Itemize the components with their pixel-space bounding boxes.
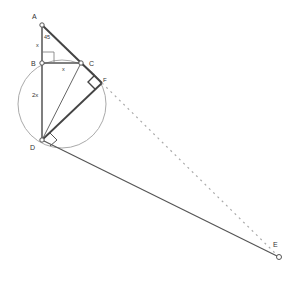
label-C: C [89, 60, 94, 67]
point-C-marker [79, 61, 83, 65]
diagram-svg: A B C F D E 45 x x 2x [0, 0, 290, 289]
segment-DF [42, 83, 102, 140]
point-D-marker [40, 138, 44, 142]
label-B: B [31, 60, 36, 67]
label-D: D [30, 144, 35, 151]
label-E: E [273, 241, 278, 248]
label-BD-2x: 2x [32, 92, 38, 98]
label-F: F [103, 77, 107, 83]
label-BC-x: x [62, 66, 65, 72]
point-B-marker [40, 61, 44, 65]
segment-AF [42, 25, 102, 83]
segment-DC [42, 63, 81, 140]
label-AB-x: x [36, 42, 39, 48]
label-angle-45: 45 [44, 34, 50, 40]
point-E-marker [277, 255, 282, 260]
segment-FE-dotted [102, 83, 279, 257]
geometry-diagram: A B C F D E 45 x x 2x [0, 0, 290, 289]
segment-DE [42, 140, 279, 257]
label-A: A [32, 13, 37, 20]
right-angle-F [88, 76, 95, 89]
point-A-marker [40, 23, 44, 27]
